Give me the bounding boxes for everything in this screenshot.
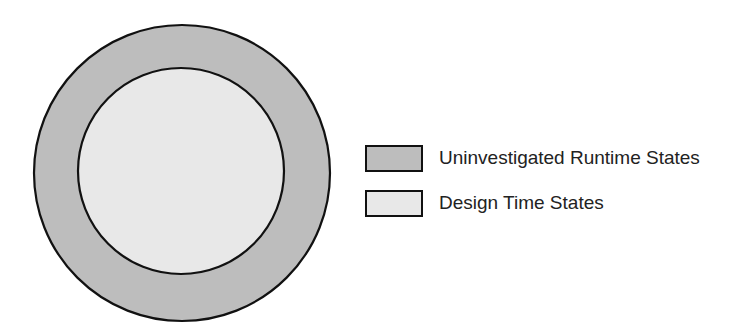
legend-swatch-light-grey	[365, 190, 423, 217]
legend-swatch-dark-grey	[365, 145, 423, 172]
legend-label: Design Time States	[439, 192, 604, 214]
legend-item-design-time-states: Design Time States	[365, 189, 604, 217]
legend-item-uninvestigated-runtime-states: Uninvestigated Runtime States	[365, 144, 700, 172]
legend: Uninvestigated Runtime States Design Tim…	[0, 0, 756, 333]
legend-label: Uninvestigated Runtime States	[439, 147, 700, 169]
